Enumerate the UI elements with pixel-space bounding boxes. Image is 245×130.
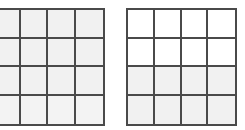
- grid-cell: [182, 67, 209, 96]
- grid-cell: [155, 96, 182, 125]
- grid-cell: [0, 39, 21, 68]
- grid-cell: [0, 67, 21, 96]
- grid-cell: [48, 39, 76, 68]
- grid-cell: [21, 39, 49, 68]
- grid-cell: [128, 96, 155, 125]
- grid-cell: [208, 10, 235, 39]
- grid-cell: [128, 39, 155, 68]
- grid-cell: [155, 67, 182, 96]
- grid-cell: [182, 10, 209, 39]
- grid-cell: [208, 67, 235, 96]
- grid-cell: [128, 10, 155, 39]
- grid-cell: [76, 67, 104, 96]
- grid-cell: [48, 67, 76, 96]
- grid-cell: [21, 96, 49, 125]
- grid-cell: [155, 39, 182, 68]
- grid-cell: [21, 10, 49, 39]
- left-grid: [0, 8, 105, 126]
- grid-cell: [155, 10, 182, 39]
- grid-cell: [128, 67, 155, 96]
- grid-cell: [208, 96, 235, 125]
- grid-cell: [48, 96, 76, 125]
- grid-cell: [21, 67, 49, 96]
- right-grid: [126, 8, 237, 126]
- grid-cell: [76, 96, 104, 125]
- grid-cell: [48, 10, 76, 39]
- grid-cell: [182, 96, 209, 125]
- grid-cell: [0, 96, 21, 125]
- grid-cell: [208, 39, 235, 68]
- grid-cell: [76, 39, 104, 68]
- grid-cell: [182, 39, 209, 68]
- grid-cell: [0, 10, 21, 39]
- grid-cell: [76, 10, 104, 39]
